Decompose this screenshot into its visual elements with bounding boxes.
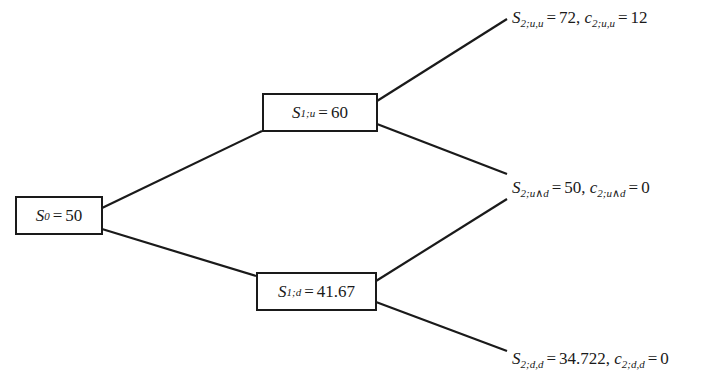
node-s1d: S1;d=41.67: [256, 272, 377, 311]
node-s0: S0=50: [15, 196, 103, 235]
leaf-uu: S2;u,u=72, c2;u,u=12: [512, 8, 648, 28]
edge-s1d-ud: [376, 199, 507, 281]
node-value: 41.67: [317, 282, 355, 302]
edge-s0-s1u: [102, 131, 262, 208]
node-value: 50: [65, 206, 82, 226]
node-value: 60: [331, 103, 348, 123]
edge-s0-s1d: [102, 229, 256, 276]
edge-s1u-ud: [377, 124, 507, 174]
edge-s1d-dd: [376, 302, 507, 351]
node-s1u: S1;u=60: [262, 93, 378, 132]
leaf-ud: S2;u∧d=50, c2;u∧d=0: [512, 178, 650, 198]
edge-s1u-uu: [377, 19, 507, 101]
leaf-dd: S2;d,d=34.722, c2;d,d=0: [512, 349, 669, 369]
